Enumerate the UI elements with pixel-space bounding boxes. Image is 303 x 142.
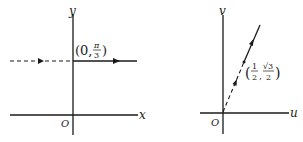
svg-text:(: (	[245, 65, 250, 81]
svg-text:1: 1	[252, 62, 257, 71]
origin-label: O	[61, 118, 69, 129]
v-axis-label: v	[219, 4, 226, 18]
point-marker	[243, 61, 246, 64]
x-axis-label: x	[139, 108, 146, 122]
dashed-segment	[223, 62, 244, 112]
svg-text:(0,: (0,	[75, 43, 92, 58]
svg-text:2: 2	[266, 73, 271, 82]
u-axis-label: u	[290, 106, 298, 120]
svg-text:): )	[275, 65, 280, 81]
svg-text:,: ,	[259, 71, 262, 81]
y-axis-label: y	[68, 4, 76, 18]
arrow-icon	[38, 58, 44, 64]
left-plot: x y O (0, π 3 )	[10, 4, 146, 135]
svg-text:3: 3	[94, 51, 99, 60]
svg-text:2: 2	[252, 73, 257, 82]
arrow-icon	[113, 58, 120, 64]
point-label: ( 1 2 , √3 2 )	[245, 62, 280, 82]
svg-text:): )	[102, 43, 107, 58]
right-plot: u v O ( 1 2 , √3 2 )	[200, 4, 298, 134]
mapping-diagram: x y O (0, π 3 ) u v O ( 1 2 ,	[0, 0, 303, 142]
point-label: (0, π 3 )	[75, 41, 107, 60]
origin-label: O	[211, 117, 219, 128]
svg-text:π: π	[93, 41, 100, 50]
arrow-icon	[233, 79, 238, 86]
svg-text:√3: √3	[263, 62, 273, 71]
arrow-icon	[249, 39, 254, 46]
